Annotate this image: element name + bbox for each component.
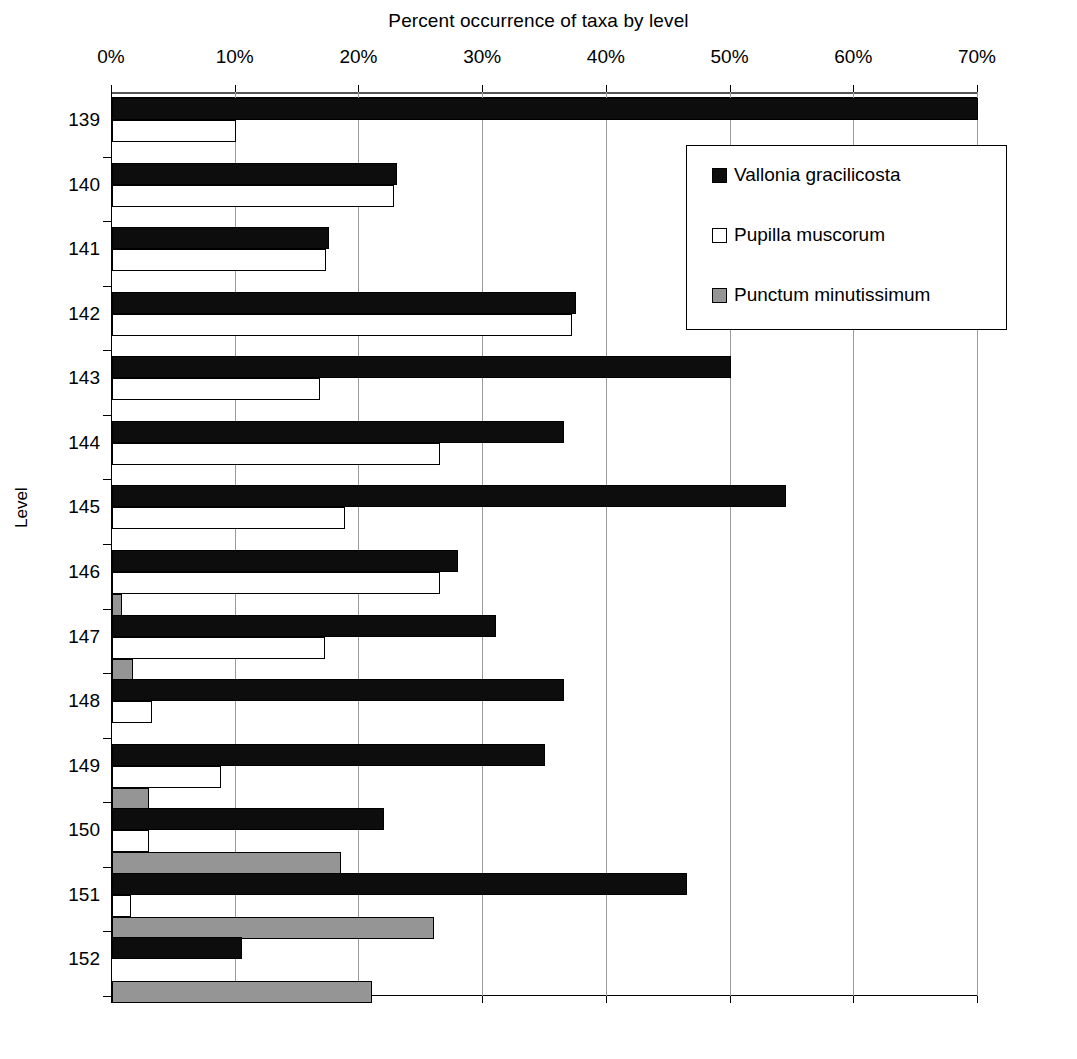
y-tick: [103, 544, 111, 545]
bar: [112, 163, 397, 185]
x-tick-label: 50%: [685, 46, 775, 68]
legend-label: Vallonia gracilicosta: [734, 164, 901, 186]
y-tick: [103, 738, 111, 739]
bar: [112, 227, 329, 249]
x-tick: [111, 85, 112, 92]
bar: [112, 443, 440, 465]
x-tick-label: 20%: [313, 46, 403, 68]
y-tick: [103, 221, 111, 222]
x-tick-label: 30%: [437, 46, 527, 68]
bar: [112, 788, 149, 810]
bar: [112, 659, 133, 681]
bar: [112, 917, 434, 939]
bar: [112, 637, 325, 659]
y-tick: [103, 479, 111, 480]
chart-container: Percent occurrence of taxa by level Leve…: [0, 0, 1077, 1059]
y-tick: [103, 609, 111, 610]
y-tick: [103, 350, 111, 351]
legend-swatch-icon: [712, 228, 727, 243]
x-tick: [730, 85, 731, 92]
y-tick: [103, 996, 111, 997]
bar: [112, 830, 149, 852]
bar: [112, 572, 440, 594]
x-tick: [358, 85, 359, 92]
bar: [112, 594, 122, 616]
y-tick: [103, 673, 111, 674]
bar: [112, 701, 152, 723]
bar: [112, 808, 384, 830]
x-tick: [606, 85, 607, 92]
bar: [112, 852, 341, 874]
x-tick-label: 70%: [932, 46, 1022, 68]
x-tick: [977, 85, 978, 92]
y-tick-label: 151: [0, 884, 100, 906]
y-tick: [103, 415, 111, 416]
x-tick-bottom: [977, 996, 978, 1003]
y-tick-label: 143: [0, 367, 100, 389]
x-tick: [235, 85, 236, 92]
y-tick-label: 149: [0, 755, 100, 777]
bar: [112, 120, 236, 142]
bar: [112, 292, 576, 314]
legend-swatch-icon: [712, 168, 727, 183]
x-tick: [853, 85, 854, 92]
bar: [112, 314, 572, 336]
bar: [112, 421, 564, 443]
y-tick-label: 142: [0, 303, 100, 325]
bar: [112, 679, 564, 701]
y-tick: [103, 931, 111, 932]
x-tick-label: 40%: [561, 46, 651, 68]
y-tick-label: 144: [0, 432, 100, 454]
plot-top-border: [111, 92, 977, 94]
y-tick-label: 139: [0, 109, 100, 131]
y-tick-label: 147: [0, 626, 100, 648]
bar: [112, 356, 731, 378]
y-tick-label: 146: [0, 561, 100, 583]
y-tick-label: 140: [0, 174, 100, 196]
legend-item: Punctum minutissimum: [712, 284, 930, 306]
bar: [112, 249, 326, 271]
bar: [112, 766, 221, 788]
bar: [112, 873, 687, 895]
bar: [112, 615, 496, 637]
chart-legend: Vallonia gracilicosta Pupilla muscorum P…: [686, 145, 1007, 330]
bar: [112, 744, 545, 766]
y-tick: [103, 802, 111, 803]
y-tick-label: 148: [0, 690, 100, 712]
x-tick-bottom: [730, 996, 731, 1003]
y-tick-label: 152: [0, 948, 100, 970]
bar: [112, 550, 458, 572]
gridline: [482, 92, 483, 996]
legend-swatch-icon: [712, 288, 727, 303]
x-tick-label: 10%: [190, 46, 280, 68]
bar: [112, 98, 978, 120]
x-tick: [482, 85, 483, 92]
bar: [112, 895, 131, 917]
x-tick-bottom: [606, 996, 607, 1003]
bar: [112, 185, 394, 207]
x-tick-bottom: [482, 996, 483, 1003]
bar: [112, 981, 372, 1003]
legend-item: Vallonia gracilicosta: [712, 164, 901, 186]
bar: [112, 485, 786, 507]
x-tick-bottom: [853, 996, 854, 1003]
y-tick-label: 141: [0, 238, 100, 260]
bar: [112, 937, 242, 959]
bar: [112, 378, 320, 400]
y-tick: [103, 867, 111, 868]
bar: [112, 507, 345, 529]
x-tick-label: 0%: [66, 46, 156, 68]
gridline: [606, 92, 607, 996]
y-tick-label: 150: [0, 819, 100, 841]
legend-label: Punctum minutissimum: [734, 284, 930, 306]
y-tick: [103, 157, 111, 158]
chart-title: Percent occurrence of taxa by level: [0, 10, 1077, 32]
y-tick: [103, 286, 111, 287]
legend-label: Pupilla muscorum: [734, 224, 885, 246]
y-tick-label: 145: [0, 496, 100, 518]
gridline: [358, 92, 359, 996]
x-tick-label: 60%: [808, 46, 898, 68]
legend-item: Pupilla muscorum: [712, 224, 885, 246]
